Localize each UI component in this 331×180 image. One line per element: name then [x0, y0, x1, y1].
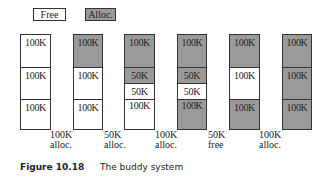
memory-block: 100K	[74, 35, 102, 67]
memory-block: 100K	[21, 99, 50, 129]
transition-action: alloc.	[155, 140, 177, 150]
memory-block: 100K	[230, 35, 259, 67]
transition-action: alloc.	[104, 140, 126, 150]
transition-action: alloc.	[50, 140, 72, 150]
memory-block: 100K	[74, 99, 102, 129]
transition-label-4: 50K free	[208, 130, 225, 150]
memory-block: 100K	[125, 99, 154, 129]
memory-block: 50K	[178, 83, 206, 99]
memory-column-5: 100K 100K 100K	[229, 34, 260, 130]
legend-free: Free	[33, 8, 66, 21]
legend-alloc: Alloc.	[85, 8, 116, 21]
memory-column-1: 100K 100K 100K	[20, 34, 51, 130]
memory-block: 50K	[125, 83, 154, 99]
transition-label-3: 100K alloc.	[155, 130, 177, 150]
transition-label-2: 50K alloc.	[104, 130, 126, 150]
transition-action: alloc.	[259, 140, 281, 150]
memory-block: 100K	[21, 35, 50, 67]
memory-block: 50K	[178, 67, 206, 83]
transition-label-5: 100K alloc.	[259, 130, 281, 150]
memory-block: 100K	[178, 35, 206, 67]
memory-column-3: 100K 50K 50K 100K	[124, 34, 155, 130]
figure-number: Figure 10.18	[20, 162, 84, 172]
memory-block: 100K	[21, 67, 50, 99]
memory-block: 100K	[230, 99, 259, 129]
memory-block: 100K	[125, 35, 154, 67]
figure-caption: The buddy system	[100, 162, 183, 172]
memory-column-6: 100K 100K 100K	[282, 34, 312, 130]
transition-label-1: 100K alloc.	[50, 130, 72, 150]
transition-action: free	[208, 140, 225, 150]
memory-block: 100K	[283, 99, 311, 129]
memory-column-2: 100K 100K 100K	[73, 34, 103, 130]
memory-block: 100K	[230, 67, 259, 99]
memory-block: 50K	[125, 67, 154, 83]
memory-block: 100K	[178, 99, 206, 129]
memory-block: 100K	[74, 67, 102, 99]
memory-block: 100K	[283, 67, 311, 99]
memory-block: 100K	[283, 35, 311, 67]
memory-column-4: 100K 50K 50K 100K	[177, 34, 207, 130]
